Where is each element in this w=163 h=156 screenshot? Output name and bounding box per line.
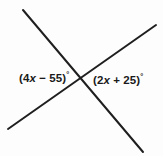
- geometry-figure: (4x − 55)° (2x + 25)°: [0, 0, 163, 156]
- angle-label-left-degree-symbol: °: [66, 70, 69, 79]
- angle-label-right: (2x + 25)°: [93, 73, 143, 86]
- angle-label-right-degree-symbol: °: [140, 72, 143, 81]
- angle-label-right-operator: +: [110, 74, 123, 86]
- angle-label-right-constant: 25: [123, 74, 136, 86]
- angle-label-left-operator: −: [36, 72, 49, 84]
- angle-label-left: (4x − 55)°: [19, 71, 69, 84]
- angle-label-left-constant: 55: [49, 72, 62, 84]
